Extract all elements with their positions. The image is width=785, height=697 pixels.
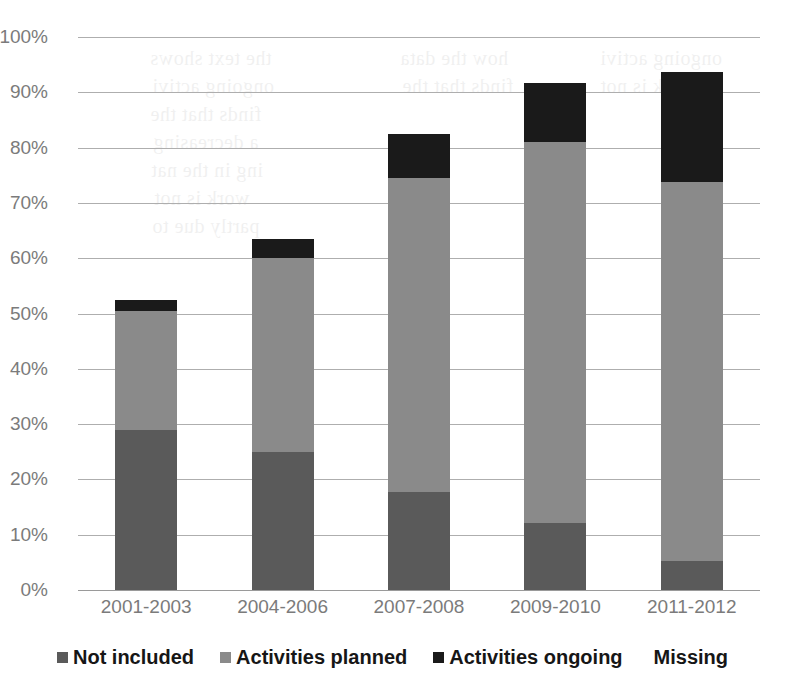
- y-axis-tick-label: 70%: [0, 192, 48, 214]
- legend-item[interactable]: Not included: [57, 646, 194, 669]
- bar-segment[interactable]: [252, 258, 314, 452]
- bar-segment[interactable]: [388, 178, 450, 492]
- x-axis-tick-label: 2004-2006: [215, 596, 351, 618]
- stacked-bar-chart: the text shows ongoing activi finds that…: [0, 0, 785, 697]
- bar-segment[interactable]: [115, 311, 177, 430]
- chart-legend: Not includedActivities plannedActivities…: [0, 646, 785, 669]
- x-axis-tick-label: 2009-2010: [487, 596, 623, 618]
- bar-slot: [487, 37, 623, 590]
- bar-segment[interactable]: [115, 430, 177, 590]
- bar-segment[interactable]: [524, 523, 586, 590]
- bar-segment[interactable]: [388, 492, 450, 590]
- y-axis-tick-label: 90%: [0, 81, 48, 103]
- legend-item[interactable]: Missing: [649, 646, 728, 669]
- stacked-bar[interactable]: [524, 83, 586, 590]
- plot-area: 0%10%20%30%40%50%60%70%80%90%100%: [78, 37, 760, 590]
- bar-segment[interactable]: [661, 72, 723, 181]
- y-axis-tick-label: 50%: [0, 303, 48, 325]
- stacked-bar[interactable]: [115, 300, 177, 590]
- bar-slot: [215, 37, 351, 590]
- bar-slot: [351, 37, 487, 590]
- bar-slot: [78, 37, 214, 590]
- legend-item[interactable]: Activities planned: [220, 646, 407, 669]
- y-axis-tick-label: 30%: [0, 413, 48, 435]
- y-axis-tick-label: 80%: [0, 137, 48, 159]
- legend-label: Not included: [73, 646, 194, 669]
- bar-segment[interactable]: [661, 182, 723, 561]
- stacked-bar[interactable]: [388, 134, 450, 590]
- legend-label: Activities ongoing: [449, 646, 622, 669]
- y-axis-tick-label: 40%: [0, 358, 48, 380]
- y-axis-tick-label: 60%: [0, 247, 48, 269]
- bar-segment[interactable]: [661, 561, 723, 590]
- bar-segment[interactable]: [524, 83, 586, 142]
- gridline: [78, 590, 760, 591]
- x-axis-tick-label: 2001-2003: [78, 596, 214, 618]
- legend-swatch-icon: [57, 652, 68, 663]
- y-axis-tick-label: 100%: [0, 26, 48, 48]
- y-axis-tick-label: 10%: [0, 524, 48, 546]
- legend-swatch-icon: [220, 652, 231, 663]
- legend-swatch-icon: [433, 652, 444, 663]
- x-axis-tick-label: 2011-2012: [624, 596, 760, 618]
- legend-item[interactable]: Activities ongoing: [433, 646, 622, 669]
- stacked-bar[interactable]: [252, 239, 314, 590]
- bar-segment[interactable]: [524, 142, 586, 523]
- x-axis-tick-labels: 2001-20032004-20062007-20082009-20102011…: [78, 596, 760, 618]
- legend-label: Missing: [654, 646, 728, 669]
- x-axis-tick-label: 2007-2008: [351, 596, 487, 618]
- bar-slot: [624, 37, 760, 590]
- bar-segment[interactable]: [115, 300, 177, 311]
- bar-group: [78, 37, 760, 590]
- y-axis-tick-label: 20%: [0, 468, 48, 490]
- legend-label: Activities planned: [236, 646, 407, 669]
- bar-segment[interactable]: [252, 452, 314, 590]
- bar-segment[interactable]: [388, 134, 450, 178]
- bar-segment[interactable]: [252, 239, 314, 258]
- y-axis-tick-label: 0%: [0, 579, 48, 601]
- stacked-bar[interactable]: [661, 72, 723, 590]
